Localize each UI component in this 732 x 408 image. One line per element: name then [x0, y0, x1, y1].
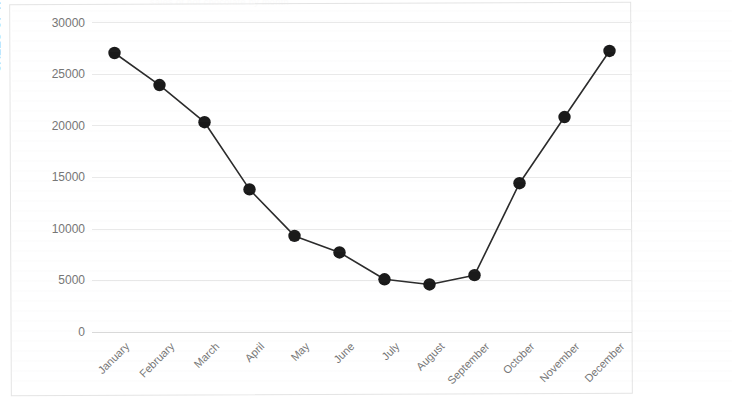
data-point-marker — [423, 278, 435, 290]
y-tick-label: 5000 — [15, 273, 85, 287]
x-tick-text: November — [537, 340, 581, 384]
data-point-marker — [243, 183, 255, 195]
series-polyline — [115, 51, 610, 285]
x-axis-tick-labels: January February March April May June Ju… — [92, 336, 632, 406]
data-point-marker — [108, 47, 120, 59]
x-tick-text: February — [137, 340, 177, 380]
y-tick-label: 0 — [15, 325, 85, 339]
x-tick-text: June — [331, 340, 356, 365]
y-tick-label: 10000 — [15, 222, 85, 236]
x-tick-text: May — [288, 340, 311, 363]
y-tick-label: 15000 — [15, 170, 85, 184]
x-tick-text: October — [500, 340, 536, 376]
data-point-marker — [603, 45, 615, 57]
x-tick-text: August — [414, 340, 447, 373]
x-tick-text: September — [445, 340, 492, 387]
plot-area — [92, 22, 632, 332]
data-point-marker — [153, 79, 165, 91]
y-tick-label: 20000 — [15, 119, 85, 133]
x-tick-text: December — [582, 340, 626, 384]
y-axis-tick-labels: 30000 25000 20000 15000 10000 5000 0 — [0, 0, 92, 340]
data-point-marker — [333, 246, 345, 258]
x-tick-text: July — [379, 340, 401, 362]
data-point-marker — [378, 273, 390, 285]
data-point-marker — [198, 116, 210, 128]
data-point-marker — [513, 177, 525, 189]
data-point-marker — [468, 269, 480, 281]
y-tick-label: 25000 — [15, 67, 85, 81]
data-point-marker — [558, 111, 570, 123]
data-series-line — [92, 22, 632, 334]
x-tick-text: March — [191, 340, 221, 370]
y-tick-label: 30000 — [15, 16, 85, 30]
series-markers — [108, 45, 615, 291]
x-tick-text: April — [242, 340, 266, 364]
x-tick-text: January — [95, 340, 131, 376]
data-point-marker — [288, 230, 300, 242]
